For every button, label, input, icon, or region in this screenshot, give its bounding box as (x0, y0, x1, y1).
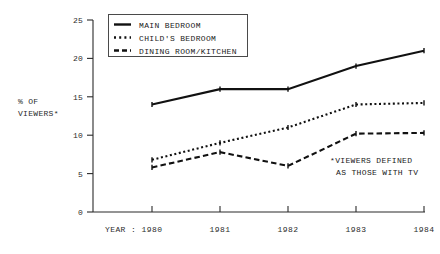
series-group (152, 48, 424, 170)
y-tick-label-0: 0 (78, 208, 83, 217)
legend-item-dining-room-kitchen[interactable]: DINING ROOM/KITCHEN (114, 47, 237, 56)
x-tick-label-1982: 1982 (278, 225, 299, 234)
chart-canvas: 25 20 15 10 5 0 % OF VIEWERS* YEAR : 198… (0, 0, 440, 254)
y-axis-title: % OF VIEWERS* (18, 97, 59, 118)
x-tick-label-1984: 1984 (414, 225, 435, 234)
footnote-annotation: *VIEWERS DEFINED AS THOSE WITH TV (330, 156, 418, 177)
y-axis: 25 20 15 10 5 0 (73, 16, 93, 217)
x-axis: YEAR : 1980 1981 1982 1983 1984 (93, 206, 434, 234)
legend: MAIN BEDROOM CHILD'S BEDROOM DINING ROOM… (109, 15, 248, 57)
x-axis-prefix-label: YEAR : (105, 225, 136, 234)
line-chart: 25 20 15 10 5 0 % OF VIEWERS* YEAR : 198… (0, 0, 440, 254)
legend-item-childs-bedroom[interactable]: CHILD'S BEDROOM (114, 34, 216, 43)
y-axis-title-line1: % OF (18, 97, 38, 106)
legend-label-childs-bedroom: CHILD'S BEDROOM (139, 34, 216, 43)
series-point-markers (152, 48, 424, 170)
x-tick-label-1983: 1983 (346, 225, 367, 234)
y-tick-label-20: 20 (73, 54, 83, 63)
x-tick-label-1980: 1980 (142, 225, 163, 234)
footnote-line1: *VIEWERS DEFINED (330, 156, 412, 165)
y-axis-title-line2: VIEWERS* (18, 109, 59, 118)
series-line-main-bedroom (152, 51, 424, 105)
x-tick-label-1981: 1981 (210, 225, 231, 234)
y-tick-label-15: 15 (73, 93, 83, 102)
legend-item-main-bedroom[interactable]: MAIN BEDROOM (114, 21, 201, 30)
series-line-childs-bedroom (152, 103, 424, 160)
y-tick-label-10: 10 (73, 131, 83, 140)
y-tick-label-5: 5 (78, 170, 83, 179)
legend-label-main-bedroom: MAIN BEDROOM (139, 21, 201, 30)
legend-label-dining-room-kitchen: DINING ROOM/KITCHEN (139, 47, 237, 56)
y-tick-label-25: 25 (73, 16, 83, 25)
footnote-line2: AS THOSE WITH TV (336, 168, 418, 177)
